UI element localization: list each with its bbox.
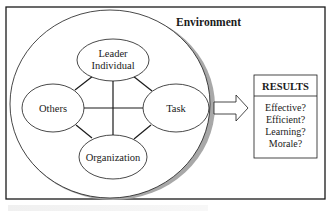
organization-label: Organization xyxy=(86,152,141,163)
leadership-model-diagram: Environment Leader Individual Others Tas… xyxy=(0,0,332,214)
environment-label: Environment xyxy=(176,16,241,28)
result-item: Morale? xyxy=(269,138,303,149)
result-item: Learning? xyxy=(265,126,306,137)
individual-label: Individual xyxy=(91,60,134,71)
task-label: Task xyxy=(166,103,186,114)
leader-label: Leader xyxy=(98,48,128,59)
results-title: RESULTS xyxy=(262,81,309,92)
caption-cropped xyxy=(8,205,208,211)
result-item: Effective? xyxy=(265,102,306,113)
result-item: Efficient? xyxy=(266,114,306,125)
arrow-right-icon xyxy=(214,95,248,121)
others-label: Others xyxy=(39,103,67,114)
